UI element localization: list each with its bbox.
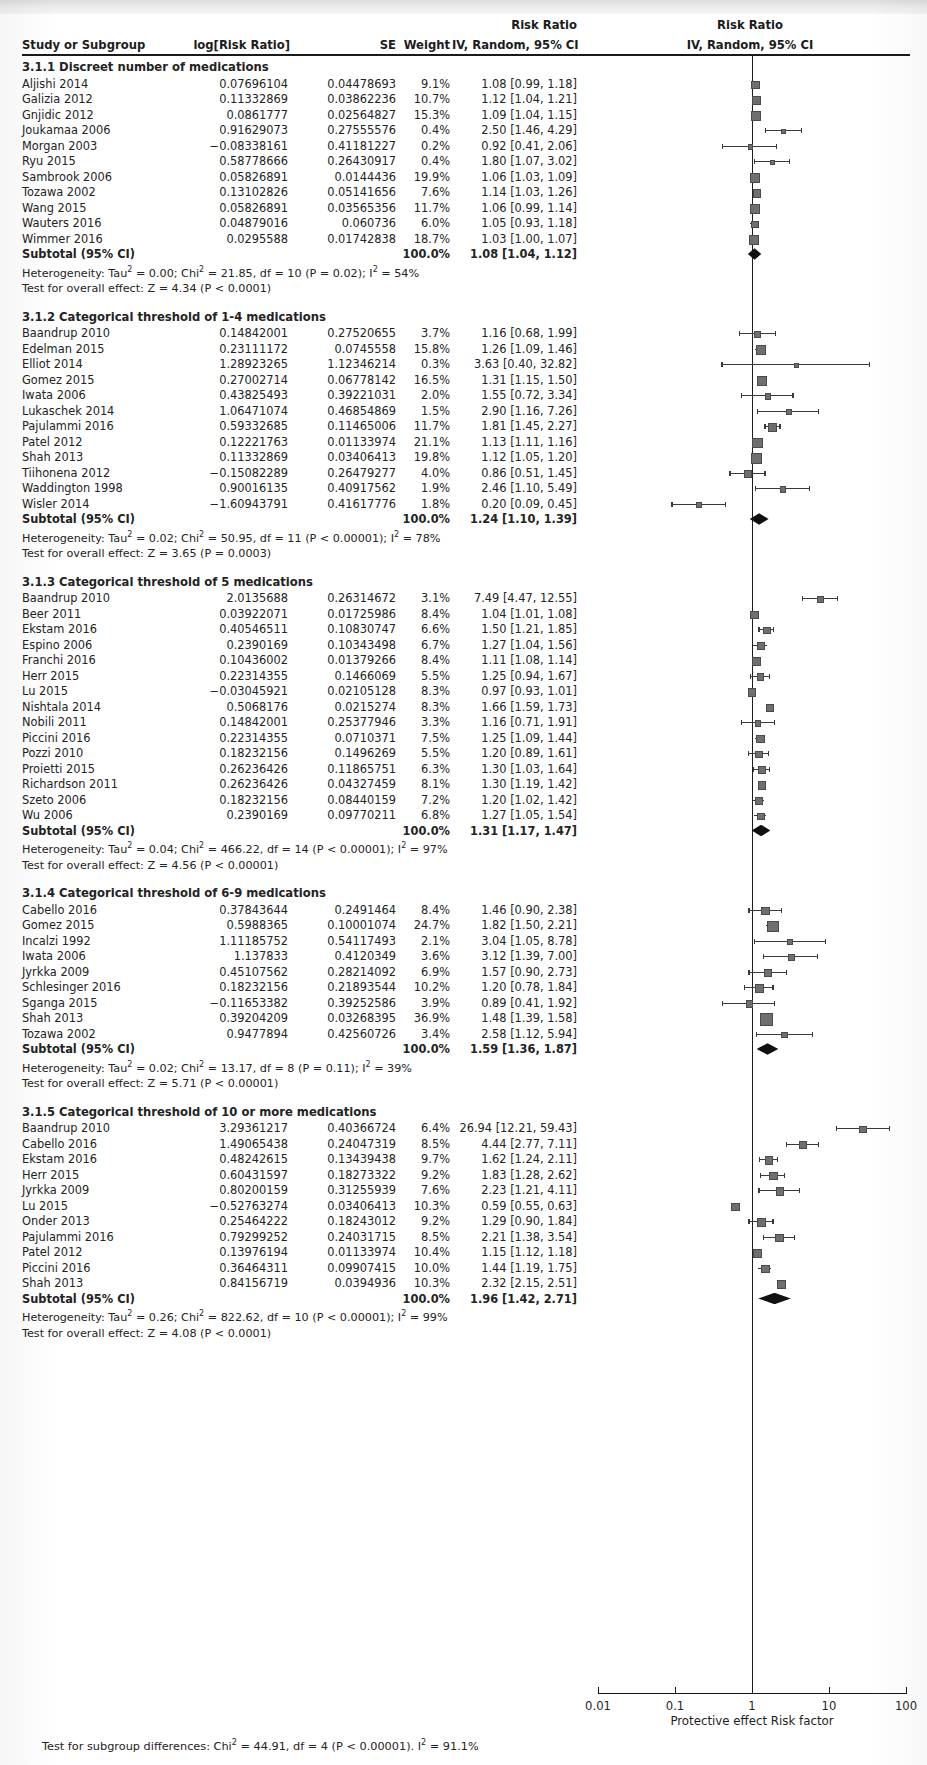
ci-value: 2.23 [1.21, 4.11] [452, 1184, 577, 1197]
effect-size-box [758, 781, 766, 789]
se-value: 0.060736 [292, 217, 396, 230]
x-axis-tick [829, 1687, 830, 1694]
se-value: 0.1466069 [292, 670, 396, 683]
study-label: Beer 2011 [22, 608, 172, 621]
se-value: 0.31255939 [292, 1184, 396, 1197]
se-value: 0.01742838 [292, 233, 396, 246]
se-value: 0.28214092 [292, 966, 396, 979]
study-label: Baandrup 2010 [22, 327, 172, 340]
se-value: 0.40917562 [292, 482, 396, 495]
study-label: Wisler 2014 [22, 498, 172, 511]
ci-cap-left [763, 1235, 764, 1240]
overall-effect-stat-3.1.2: Test for overall effect: Z = 3.65 (P = 0… [22, 547, 271, 560]
se-value: 0.24047319 [292, 1138, 396, 1151]
log-risk-ratio-value: 0.60431597 [168, 1169, 288, 1182]
se-value: 0.01133974 [292, 436, 396, 449]
se-value: 0.03406413 [292, 1200, 396, 1213]
se-value: 0.41181227 [292, 140, 396, 153]
weight-value: 8.5% [398, 1231, 450, 1244]
ci-value: 1.82 [1.50, 2.21] [452, 919, 577, 932]
ci-value: 1.30 [1.03, 1.64] [452, 763, 577, 776]
log-risk-ratio-value: 1.06471074 [168, 405, 288, 418]
weight-value: 9.7% [398, 1153, 450, 1166]
weight-value: 3.9% [398, 997, 450, 1010]
ci-cap-right [769, 767, 770, 772]
ci-cap-left [748, 751, 749, 756]
study-label: Tozawa 2002 [22, 186, 172, 199]
effect-size-box [768, 423, 777, 432]
study-label: Jyrkka 2009 [22, 966, 172, 979]
subgroup-heading-3.1.3: 3.1.3 Categorical threshold of 5 medicat… [22, 576, 313, 589]
study-label: Szeto 2006 [22, 794, 172, 807]
effect-size-box [757, 673, 765, 681]
ci-cap-right [776, 144, 777, 149]
study-label: Lu 2015 [22, 685, 172, 698]
study-label: Herr 2015 [22, 670, 172, 683]
study-label: Ryu 2015 [22, 155, 172, 168]
log-risk-ratio-value: −0.03045921 [168, 685, 288, 698]
ci-cap-left [744, 985, 745, 990]
log-risk-ratio-value: 0.45107562 [168, 966, 288, 979]
effect-size-box [788, 954, 795, 961]
ci-value: 0.86 [0.51, 1.45] [452, 467, 577, 480]
heterogeneity-stat-3.1.3: Heterogeneity: Tau2 = 0.04; Chi2 = 466.2… [22, 843, 448, 856]
study-label: Shah 2013 [22, 1277, 172, 1290]
weight-value: 6.7% [398, 639, 450, 652]
ci-value: 1.14 [1.03, 1.26] [452, 186, 577, 199]
column-header-log-risk-ratio: log[Risk Ratio] [150, 38, 290, 52]
se-value: 0.03565356 [292, 202, 396, 215]
ci-cap-right [773, 627, 774, 632]
effect-size-box [756, 735, 764, 743]
effect-size-box [766, 704, 774, 712]
weight-value: 15.8% [398, 343, 450, 356]
ci-value: 2.32 [2.15, 2.51] [452, 1277, 577, 1290]
subtotal-ci: 1.59 [1.36, 1.87] [452, 1043, 577, 1056]
log-risk-ratio-value: 0.14842001 [168, 716, 288, 729]
ci-cap-right [777, 1157, 778, 1162]
log-risk-ratio-value: 0.5988365 [168, 919, 288, 932]
effect-size-box [761, 1265, 770, 1274]
study-label: Piccini 2016 [22, 732, 172, 745]
ci-value: 2.50 [1.46, 4.29] [452, 124, 577, 137]
ci-cap-left [758, 1188, 759, 1193]
subgroup-heading-3.1.2: 3.1.2 Categorical threshold of 1-4 medic… [22, 311, 326, 324]
effect-size-box [752, 438, 763, 449]
weight-value: 9.1% [398, 78, 450, 91]
log-risk-ratio-value: 0.0861777 [168, 109, 288, 122]
se-value: 0.01725986 [292, 608, 396, 621]
ci-value: 1.09 [1.04, 1.15] [452, 109, 577, 122]
effect-size-box [753, 1249, 762, 1258]
ci-cap-right [774, 1001, 775, 1006]
log-risk-ratio-value: 0.2390169 [168, 639, 288, 652]
study-label: Baandrup 2010 [22, 1122, 172, 1135]
weight-value: 7.6% [398, 186, 450, 199]
log-risk-ratio-value: 0.05826891 [168, 202, 288, 215]
log-risk-ratio-value: 0.37843644 [168, 904, 288, 917]
effect-size-box [787, 939, 793, 945]
ci-value: 1.06 [0.99, 1.14] [452, 202, 577, 215]
se-value: 0.18243012 [292, 1215, 396, 1228]
weight-value: 0.3% [398, 358, 450, 371]
ci-cap-left [836, 1126, 837, 1131]
ci-cap-left [758, 627, 759, 632]
effect-size-box [777, 1280, 786, 1289]
effect-size-box [748, 688, 756, 696]
ci-cap-left [741, 393, 742, 398]
study-label: Onder 2013 [22, 1215, 172, 1228]
study-label: Wauters 2016 [22, 217, 172, 230]
se-value: 0.40366724 [292, 1122, 396, 1135]
effect-size-box [769, 1172, 778, 1181]
ci-cap-right [784, 1173, 785, 1178]
ci-value: 3.63 [0.40, 32.82] [452, 358, 577, 371]
study-label: Baandrup 2010 [22, 592, 172, 605]
subtotal-label: Subtotal (95% CI) [22, 248, 172, 261]
ci-cap-left [759, 1157, 760, 1162]
forest-plot-canvas [577, 28, 927, 1668]
study-label: Gomez 2015 [22, 374, 172, 387]
ci-cap-left [754, 159, 755, 164]
effect-size-box [781, 129, 786, 134]
ci-cap-left [756, 1032, 757, 1037]
weight-value: 1.8% [398, 498, 450, 511]
study-label: Pajulammi 2016 [22, 420, 172, 433]
log-risk-ratio-value: 0.22314355 [168, 670, 288, 683]
